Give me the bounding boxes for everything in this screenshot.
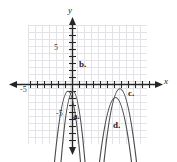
x-axis-arrow-right — [155, 81, 163, 88]
x-tick-label-neg5: -5 — [20, 86, 27, 94]
y-axis-arrow-up — [69, 17, 76, 25]
curve-a — [55, 91, 81, 162]
y-tick-label-5: 5 — [54, 44, 58, 52]
y-axis-arrow-down — [69, 147, 76, 155]
y-axis-label: y — [68, 6, 72, 15]
parabola-curves — [55, 89, 137, 162]
curve-label-a: a. — [73, 112, 80, 121]
x-axis-arrow-left — [9, 81, 17, 88]
coordinate-plane-svg — [0, 0, 177, 162]
graph-figure: a. b. c. d. x y -5 5 -5 — [0, 0, 177, 162]
y-tick-label-neg5: -5 — [56, 110, 63, 118]
x-axis-label: x — [164, 77, 168, 86]
curve-label-c: c. — [128, 89, 134, 98]
curve-label-d: d. — [113, 121, 120, 130]
curve-label-b: b. — [79, 60, 86, 69]
